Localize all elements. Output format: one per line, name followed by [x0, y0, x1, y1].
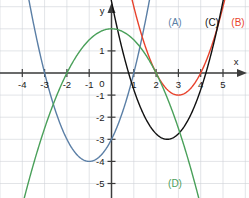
- x-tick-label: -3: [40, 79, 48, 90]
- graph-figure: -4-3-2-1123451-1-2-3-4-50 (A)(B)(C)(D) x…: [0, 0, 249, 198]
- x-tick-label: 5: [220, 79, 225, 90]
- x-tick-label: 3: [176, 79, 181, 90]
- coordinate-plane: -4-3-2-1123451-1-2-3-4-50 (A)(B)(C)(D) x…: [0, 0, 249, 198]
- axis-names-layer: xy: [100, 5, 239, 67]
- x-axis-name: x: [234, 56, 239, 67]
- curve-label-b: (B): [231, 17, 244, 28]
- y-tick-label: -1: [96, 90, 104, 101]
- x-tick-label: 2: [153, 79, 158, 90]
- x-tick-label: -4: [18, 79, 26, 90]
- y-tick-label: -4: [96, 156, 104, 167]
- curve-label-c: (C): [205, 17, 219, 28]
- curve-labels-layer: (A)(B)(C)(D): [168, 17, 245, 189]
- x-tick-label: 4: [198, 79, 203, 90]
- y-tick-label: -2: [96, 112, 104, 123]
- y-tick-label: -3: [96, 134, 104, 145]
- origin-label: 0: [99, 78, 104, 89]
- y-tick-label: 1: [99, 45, 104, 56]
- x-tick-label: -2: [63, 79, 71, 90]
- y-axis-name: y: [100, 5, 105, 16]
- x-tick-label: 1: [131, 79, 136, 90]
- grid-layer: [0, 0, 249, 198]
- x-tick-label: -1: [85, 79, 93, 90]
- curve-label-d: (D): [168, 178, 182, 189]
- y-tick-label: -5: [96, 178, 104, 189]
- curve-label-a: (A): [168, 17, 181, 28]
